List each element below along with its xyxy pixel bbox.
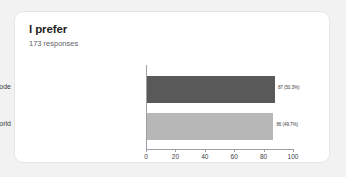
bar-value-label-0: 87 (50.3%): [278, 85, 299, 90]
page-title: I prefer: [29, 23, 78, 36]
x-axis-line: [146, 149, 293, 150]
category-label-0: To stay in silent mode: [0, 83, 11, 90]
bar-value-label-1: 86 (49.7%): [276, 122, 297, 127]
x-tick-mark: [146, 149, 147, 152]
x-tick-label: 60: [231, 153, 238, 160]
response-card: I prefer 173 responses To stay in silent…: [14, 11, 330, 163]
category-label-1: To share with the world: [0, 120, 11, 127]
x-tick-label: 100: [288, 153, 299, 160]
bar-chart: To stay in silent mode 87 (50.3%) To sha…: [15, 60, 331, 164]
x-tick-mark: [175, 149, 176, 152]
x-tick-mark: [234, 149, 235, 152]
bar-1[interactable]: [147, 113, 273, 140]
x-tick-label: 80: [260, 153, 267, 160]
x-tick-mark: [205, 149, 206, 152]
response-count: 173 responses: [29, 38, 78, 49]
chart-header: I prefer 173 responses: [29, 23, 78, 49]
bar-0[interactable]: [147, 76, 275, 103]
x-tick-label: 40: [201, 153, 208, 160]
x-tick-label: 20: [172, 153, 179, 160]
x-tick-mark: [264, 149, 265, 152]
x-tick-label: 0: [144, 153, 148, 160]
x-tick-mark: [293, 149, 294, 152]
